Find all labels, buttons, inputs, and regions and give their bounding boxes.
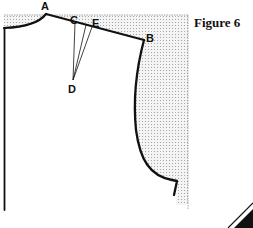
label-b: B: [146, 32, 154, 44]
label-c: C: [70, 14, 78, 26]
figure-title: Figure 6: [194, 15, 241, 30]
label-a: A: [41, 0, 49, 12]
corner-wedge: [228, 203, 253, 228]
pattern-diagram: A C E B D Figure 6: [0, 0, 253, 228]
label-d: D: [68, 83, 76, 95]
label-e: E: [92, 17, 99, 29]
dart-lines: [73, 23, 92, 80]
